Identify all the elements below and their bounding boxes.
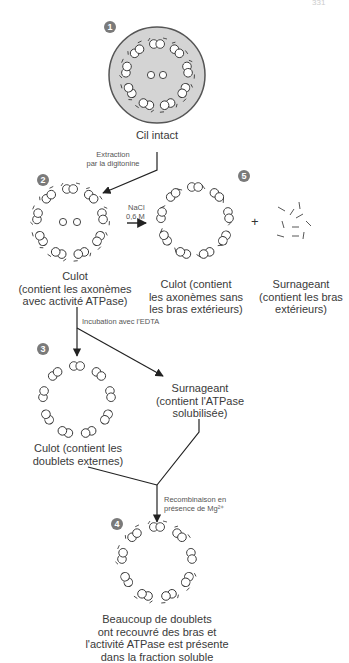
label-line: Recombinaison en	[164, 495, 226, 504]
caption-line: Culot	[10, 270, 140, 283]
step-badge-2: 2	[37, 174, 49, 186]
caption-step-4: Beaucoup de doublets ont recouvré des br…	[77, 613, 237, 663]
outer-doublets	[38, 362, 116, 439]
label-line: 0,6 M	[126, 212, 145, 221]
step-badge-3: 3	[37, 343, 49, 355]
caption-line: dans la fraction soluble	[77, 651, 237, 663]
caption-line: les axonèmes sans	[146, 291, 246, 304]
step-badge-4: 4	[111, 518, 123, 530]
cilium-intact-cross-section	[109, 27, 205, 123]
caption-step-3: Culot (contient les doublets externes)	[28, 442, 128, 467]
label-line: NaCl	[126, 203, 145, 212]
caption-line: Culot (contient	[146, 278, 246, 291]
step-badge-1: 1	[104, 21, 116, 33]
caption-line: (contient l'ATPase	[150, 395, 250, 408]
caption-line: Surnageant	[251, 278, 349, 291]
caption-line: solubilisée)	[150, 407, 250, 420]
caption-line: Surnageant	[150, 382, 250, 395]
label-line: Extraction	[83, 150, 143, 159]
caption-line: doublets externes)	[28, 455, 128, 468]
caption-step-2: Culot (contient les axonèmes avec activi…	[10, 270, 140, 308]
caption-line: Culot (contient les	[28, 442, 128, 455]
caption-line: Beaucoup de doublets	[77, 613, 237, 626]
caption-cil-intact: Cil intact	[107, 129, 207, 142]
released-outer-arms	[277, 202, 311, 239]
caption-line: (contient les bras	[251, 291, 349, 304]
label-line: présence de Mg²⁺	[164, 504, 226, 513]
label-line: par la digitonine	[83, 159, 143, 168]
axoneme-with-arms	[30, 183, 110, 262]
caption-line: les bras extérieurs)	[146, 303, 246, 316]
caption-step-5-pellet: Culot (contient les axonèmes sans les br…	[146, 278, 246, 316]
caption-line: extérieurs)	[251, 303, 349, 316]
caption-line: l'activité ATPase est présente	[77, 638, 237, 651]
step-badge-5: 5	[238, 170, 250, 182]
caption-line: Cil intact	[107, 129, 207, 142]
axoneme-without-outer-arms	[156, 183, 234, 261]
caption-line: ont recouvré des bras et	[77, 626, 237, 639]
arrow-label-recombination: Recombinaison en présence de Mg²⁺	[164, 495, 226, 513]
recombined-axoneme	[115, 521, 197, 604]
arrow-label-nacl: NaCl 0,6 M	[126, 203, 145, 221]
plus-sign: +	[251, 214, 259, 229]
caption-step-5-supernatant: Surnageant (contient les bras extérieurs…	[251, 278, 349, 316]
arrow-label-extraction: Extraction par la digitonine	[83, 150, 143, 168]
caption-line: (contient les axonèmes	[10, 283, 140, 296]
caption-soluble-atpase: Surnageant (contient l'ATPase solubilisé…	[150, 382, 250, 420]
caption-line: avec activité ATPase)	[10, 295, 140, 308]
arrow-label-edta: Incubation avec l'EDTA	[82, 317, 159, 326]
